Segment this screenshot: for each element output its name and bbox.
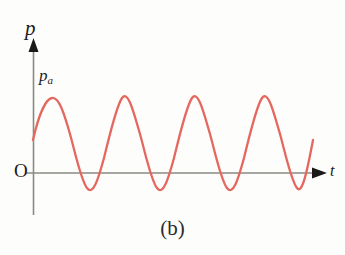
pressure-time-figure: p pa O t (b) xyxy=(0,0,345,255)
amplitude-subscript: a xyxy=(48,74,54,86)
figure-caption: (b) xyxy=(0,216,345,241)
y-axis-label: p xyxy=(25,18,36,39)
amplitude-symbol: p xyxy=(39,66,48,85)
waveform-curve xyxy=(33,96,313,190)
origin-label: O xyxy=(14,161,28,180)
y-axis-arrow-icon xyxy=(29,38,39,52)
amplitude-label: pa xyxy=(39,67,53,86)
x-axis-label: t xyxy=(330,163,334,179)
x-axis-arrow-icon xyxy=(312,168,327,179)
